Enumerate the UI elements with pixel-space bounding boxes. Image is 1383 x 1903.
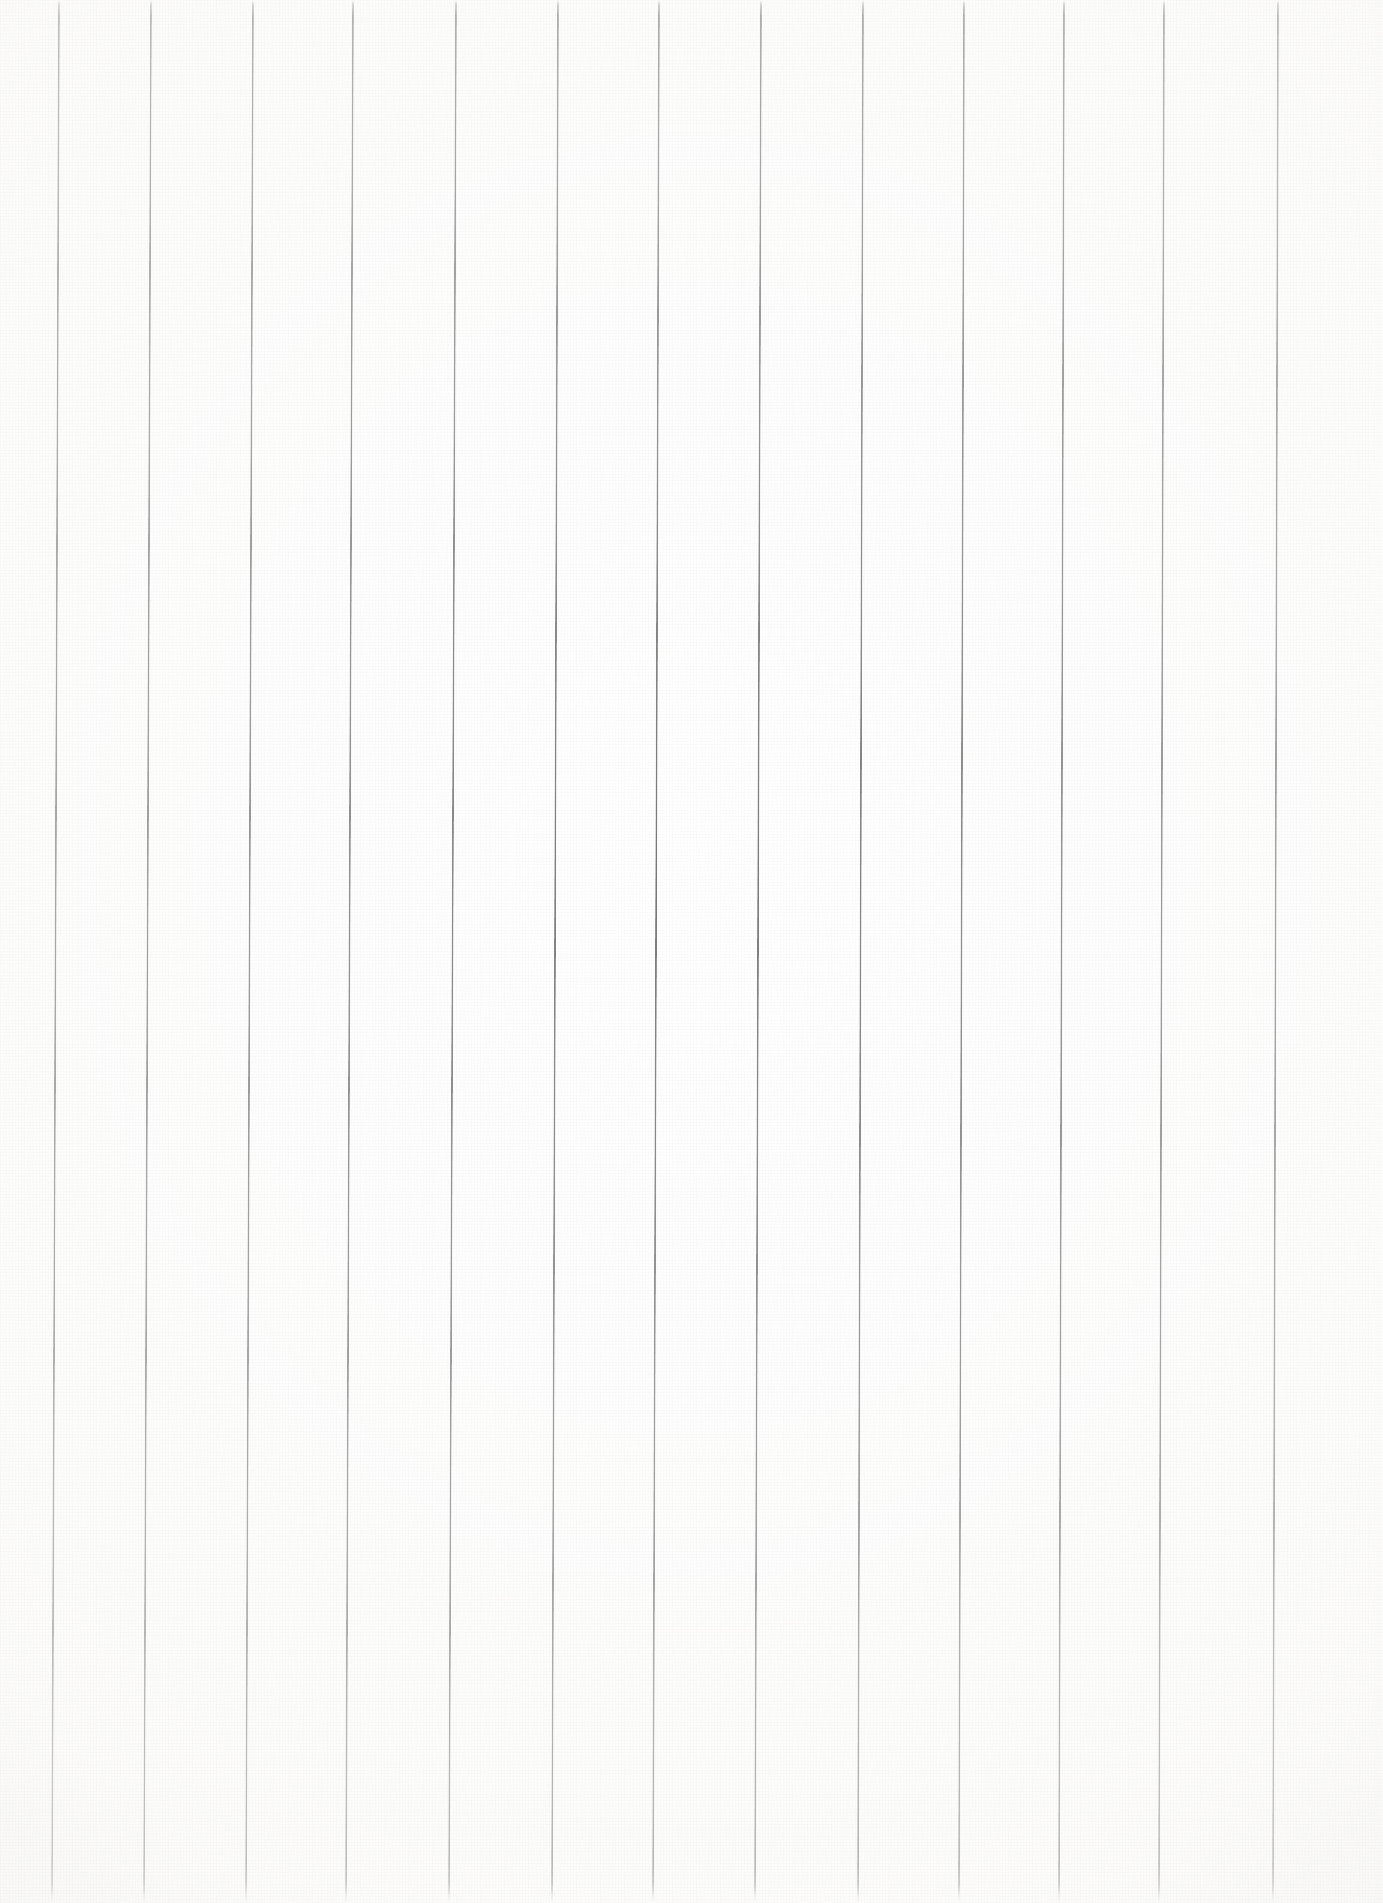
rule-11 [1058,0,1065,1903]
rule-3 [245,0,254,1903]
rule-5 [448,0,457,1903]
rule-10 [958,0,965,1903]
rule-1 [51,0,60,1903]
rule-4 [345,0,354,1903]
rule-2 [143,0,152,1903]
rule-7 [652,0,660,1903]
rule-12 [1158,0,1165,1903]
paper-sheet [0,0,1383,1903]
rule-9 [857,0,864,1903]
rule-6 [551,0,559,1903]
rule-13 [1272,0,1279,1903]
rule-lines-layer [0,0,1383,1903]
rule-8 [754,0,762,1903]
